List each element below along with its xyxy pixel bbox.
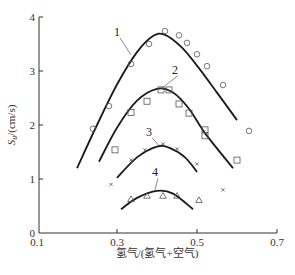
data-markers [90,28,252,202]
y-tick-label: 1 [30,173,36,185]
y-tick-label: 2 [30,119,36,131]
fit-curve-2 [99,88,233,168]
curve-label-4: 4 [152,165,158,179]
leader-line [120,38,131,55]
square-marker [176,101,182,107]
square-marker [144,98,150,104]
circle-marker [162,28,168,34]
circle-marker [176,33,182,39]
circle-marker [220,82,226,88]
curve-label-1: 1 [114,25,120,39]
curve-label-3: 3 [146,125,152,139]
x-axis-label: 氢气/(氢气+空气) [116,246,199,260]
fit-curve-1 [77,34,237,169]
y-tick-label: 0 [30,227,36,239]
leader-line [152,138,159,146]
fit-curve-4 [121,191,193,210]
circle-marker [246,128,252,134]
circle-marker [204,63,210,69]
triangle-marker [196,197,203,203]
y-tick-label: 4 [30,11,36,23]
curve-labels: 1234 [114,25,178,190]
y-tick-label: 3 [30,65,36,77]
curve-label-2: 2 [172,63,178,77]
triangle-marker [160,193,167,199]
chart: 0.10.30.50.701234 1234 氢气/(氢气+空气) Su/(cm… [0,0,295,275]
leader-line [155,178,158,190]
square-marker [234,157,240,163]
square-marker [112,147,118,153]
cross-marker [175,147,178,150]
circle-marker [146,41,152,47]
circle-marker [184,40,190,46]
x-tick-label: 0.7 [270,236,284,248]
cross-marker [129,159,132,162]
cross-marker [195,162,198,165]
cross-marker [221,188,224,191]
y-axis-label: Su/(cm/s) [5,104,19,145]
circle-marker [194,51,200,57]
cross-marker [109,183,112,186]
